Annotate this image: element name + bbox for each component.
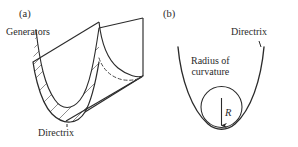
near-parabola-inner-edge (36, 28, 99, 108)
directrix-leader-b (259, 41, 261, 47)
figure-drawing (0, 0, 298, 147)
directrix-label-panel-b: Directrix (231, 27, 267, 38)
generators-label: Generators (6, 27, 50, 38)
far-parabola-visible-edge (99, 22, 143, 77)
radius-symbol-label: R (225, 107, 231, 118)
radius-of-curvature-line-2: curvature (191, 67, 230, 78)
panel-a-trough (0, 0, 143, 147)
radius-of-curvature-label: Radius of curvature (191, 56, 230, 78)
panel-a-tag: (a) (19, 8, 31, 19)
generator-outer-lower (85, 76, 143, 112)
figure-container: (a) Generators Directrix (b) Directrix R… (0, 0, 298, 147)
generator-inner-top (99, 18, 143, 28)
panel-b-tag: (b) (163, 8, 175, 19)
directrix-label-panel-a: Directrix (38, 128, 74, 139)
cross-section-hatching (0, 0, 120, 147)
